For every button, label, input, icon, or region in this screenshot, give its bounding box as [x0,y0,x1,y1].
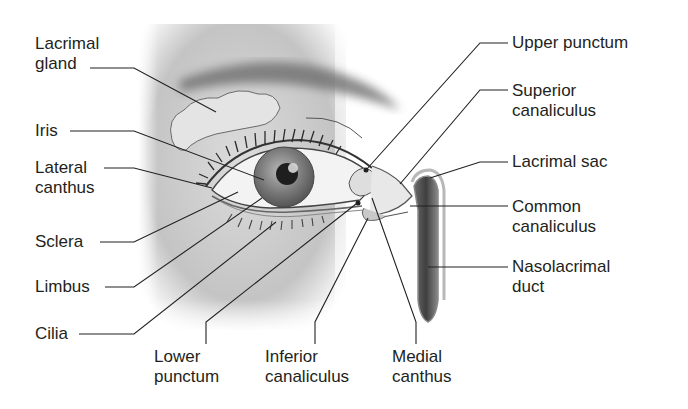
label-text: Sclera [35,232,83,252]
label-text: canthus [392,367,452,387]
canaliculi [370,166,412,214]
label-text: canaliculus [512,101,596,121]
label-medial-canthus: Medial canthus [392,347,452,387]
label-text: Lacrimal sac [512,152,607,172]
label-upper-punctum: Upper punctum [512,33,628,53]
label-text: Upper punctum [512,33,628,53]
label-text: Superior [512,81,596,101]
nasolacrimal-duct-shape [414,176,438,322]
lower-punctum-point [356,201,361,206]
label-text: canthus [35,178,95,198]
label-text: Medial [392,347,452,367]
label-nasolacrimal-duct: Nasolacrimal duct [512,257,610,297]
label-cilia: Cilia [35,324,68,344]
label-lower-punctum: Lower punctum [154,347,219,387]
label-text: punctum [154,367,219,387]
label-text: canaliculus [265,367,349,387]
label-text: Lateral [35,158,95,178]
lacrimal-apparatus-diagram: Lacrimal gland Iris Lateral canthus Scle… [0,0,688,409]
label-common-canaliculus: Common canaliculus [512,197,596,237]
label-text: canaliculus [512,217,596,237]
label-superior-canaliculus: Superior canaliculus [512,81,596,121]
label-text: Cilia [35,324,68,344]
label-limbus: Limbus [35,277,90,297]
label-text: Common [512,197,596,217]
label-text: duct [512,277,610,297]
label-lacrimal-sac: Lacrimal sac [512,152,607,172]
label-text: Nasolacrimal [512,257,610,277]
label-text: Lacrimal [35,34,99,54]
label-text: Limbus [35,277,90,297]
label-iris: Iris [35,121,58,141]
label-lacrimal-gland: Lacrimal gland [35,34,99,74]
label-text: Inferior [265,347,349,367]
label-inferior-canaliculus: Inferior canaliculus [265,347,349,387]
label-sclera: Sclera [35,232,83,252]
label-text: Lower [154,347,219,367]
label-text: Iris [35,121,58,141]
label-lateral-canthus: Lateral canthus [35,158,95,198]
label-text: gland [35,54,99,74]
